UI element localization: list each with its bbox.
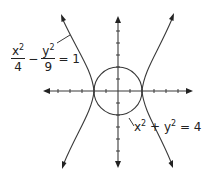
minus-sign: −	[28, 53, 38, 65]
y-fraction: y2 9	[41, 45, 55, 73]
hyperbola-equation-label: x2 4 − y2 9 = 1	[11, 45, 80, 73]
circle-equation-label: x2 + y2 = 4	[134, 121, 201, 133]
y-axis-up-arrow-icon	[115, 16, 121, 23]
hyperbola-left-top-arrow-icon	[61, 14, 66, 22]
y-axis-down-arrow-icon	[115, 161, 121, 168]
y-axis	[115, 16, 121, 168]
x-fraction: x2 4	[11, 45, 25, 73]
x-axis-left-arrow-icon	[43, 88, 50, 94]
hyperbola-right-top-arrow-icon	[169, 13, 174, 21]
equals-one: = 1	[58, 53, 80, 65]
hyperbola-label-leader	[57, 35, 70, 43]
coordinate-diagram	[0, 0, 202, 181]
x-axis-right-arrow-icon	[186, 88, 193, 94]
hyperbola-left-bottom-arrow-icon	[62, 161, 67, 169]
